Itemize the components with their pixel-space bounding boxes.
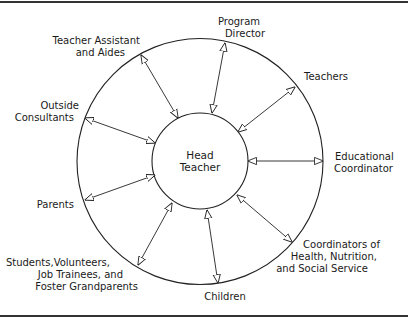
- node-label-line: Teacher Assistant: [51, 35, 140, 46]
- node-label-line: Parents: [37, 199, 74, 210]
- node-label-line: Educational: [335, 151, 394, 162]
- node-label-line: Foster Grandparents: [35, 281, 138, 292]
- node-teachers: Teachers: [303, 71, 348, 82]
- node-children: Children: [204, 291, 246, 302]
- arrow-coordinators-health: [237, 195, 292, 242]
- node-label-line: and Social Service: [276, 263, 368, 274]
- node-label-line: Outside: [40, 100, 79, 111]
- head-teacher-relationship-diagram: Head Teacher Program Director Teachers E…: [0, 0, 408, 322]
- node-label-line: Director: [225, 28, 266, 39]
- node-label-line: Teachers: [303, 71, 348, 82]
- arrow-outside-consultants: [85, 118, 155, 143]
- arrow-teacher-assistant: [141, 55, 178, 118]
- center-line-2: Teacher: [179, 161, 221, 173]
- node-label-line: Consultants: [15, 112, 74, 123]
- node-label-line: Program: [218, 16, 260, 27]
- node-educational-coordinator: Educational Coordinator: [334, 151, 394, 174]
- node-parents: Parents: [37, 199, 74, 210]
- node-students-volunteers: Students,Volunteers, Job Trainees, and F…: [6, 257, 138, 292]
- node-label-line: Coordinators of: [303, 239, 380, 250]
- arrow-children: [207, 210, 218, 283]
- node-outside-consultants: Outside Consultants: [15, 100, 79, 123]
- node-label-line: and Aides: [76, 47, 125, 58]
- arrow-students-volunteers: [138, 203, 172, 265]
- arrow-parents: [85, 175, 155, 200]
- node-label-line: Health, Nutrition,: [291, 251, 377, 262]
- node-coordinators-health: Coordinators of Health, Nutrition, and S…: [276, 239, 380, 274]
- node-program-director: Program Director: [218, 16, 266, 39]
- head-teacher-label: Head Teacher: [179, 149, 221, 173]
- node-label-line: Students,Volunteers,: [6, 257, 110, 268]
- node-label-line: Job Trainees, and: [37, 269, 123, 280]
- node-label-line: Children: [204, 291, 246, 302]
- arrow-program-director: [212, 43, 225, 113]
- center-line-1: Head: [186, 149, 213, 161]
- arrow-teachers: [238, 87, 295, 132]
- node-label-line: Coordinator: [334, 163, 394, 174]
- node-teacher-assistant: Teacher Assistant and Aides: [51, 35, 140, 58]
